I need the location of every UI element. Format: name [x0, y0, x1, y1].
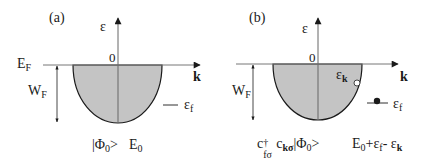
f-level-sub: f [399, 102, 402, 113]
energy-E: E [352, 136, 361, 151]
fermi-energy-label: EF [17, 57, 31, 73]
bandwidth-sub: F [245, 89, 251, 100]
excited-state-energy: E0+εf- εk [352, 137, 402, 153]
panel-a-graphics [43, 18, 200, 123]
ground-state-energy: E0 [129, 138, 143, 154]
k-axis-label-a: k [193, 70, 201, 84]
k-axis-label-b: k [400, 70, 408, 84]
fermi-sub: F [26, 62, 32, 73]
fermi-E: E [17, 56, 26, 71]
hole-icon [354, 80, 360, 86]
ket-phi: |Φ [92, 137, 105, 152]
energy-axis-label-b: ε [302, 22, 308, 36]
bandwidth-label-b: WF [232, 84, 251, 100]
panel-a-tag: (a) [49, 11, 65, 25]
panel-b-tag: (b) [249, 11, 265, 25]
ket-phi: |Φ [293, 136, 306, 151]
energy-minus-eps: - ε [383, 136, 397, 151]
bandwidth-W: W [232, 83, 245, 98]
ket-close: > [312, 136, 320, 151]
energy-sub: 0 [138, 143, 143, 154]
energy-k-sub: k [397, 142, 403, 153]
energy-axis-label-a: ε [100, 20, 106, 34]
bandwidth-W: W [28, 83, 41, 98]
f-level-label-a: εf [184, 98, 193, 114]
energy-E: E [129, 137, 138, 152]
dagger: † [263, 138, 268, 148]
bandwidth-label-a: WF [28, 84, 47, 100]
origin-label-b: 0 [309, 51, 316, 64]
origin-label-a: 0 [109, 51, 116, 64]
op-f-sub: fσ [263, 150, 272, 160]
panel-b-graphics [236, 18, 398, 120]
op-k-sub: kσ [282, 142, 293, 153]
bandwidth-sub: F [41, 89, 47, 100]
ground-state-ket: |Φ0> [92, 138, 118, 154]
hole-sub: k [342, 73, 348, 84]
energy-plus-eps: +ε [366, 136, 380, 151]
f-level-label-b: εf [393, 97, 402, 113]
electron-icon [374, 98, 380, 104]
hole-energy-label: εk [336, 68, 347, 84]
excited-state-ket: c†fσckσ|Φ0> [257, 137, 319, 153]
ket-close: > [110, 137, 118, 152]
f-level-sub: f [190, 103, 193, 114]
